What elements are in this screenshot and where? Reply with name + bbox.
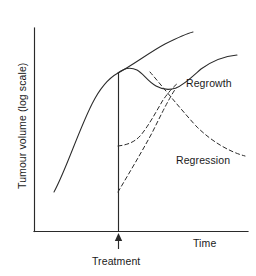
- chart-canvas: [0, 0, 256, 276]
- figure-container: Tumour volume (log scale) Time Regrowth …: [0, 0, 256, 276]
- regrowth-annotation-label: Regrowth: [186, 78, 232, 90]
- untreated-growth-curve: [54, 32, 193, 192]
- x-axis-label: Time: [193, 238, 216, 250]
- partial-response-regrowth-curve: [118, 83, 178, 146]
- treatment-arrow-icon: [115, 233, 122, 241]
- y-axis-label: Tumour volume (log scale): [17, 61, 29, 191]
- treatment-annotation-label: Treatment: [92, 256, 140, 268]
- regression-annotation-label: Regression: [176, 155, 230, 167]
- complete-response-regrowth-curve: [118, 88, 176, 192]
